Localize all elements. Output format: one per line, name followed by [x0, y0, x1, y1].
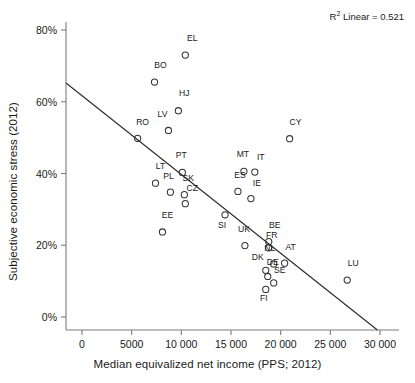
data-point-marker [182, 201, 188, 207]
data-point-label: SK [183, 173, 195, 183]
data-point-marker [159, 229, 165, 235]
data-point-label: PT [176, 150, 188, 160]
x-tick-label: 5000 [120, 338, 144, 350]
data-point-marker [263, 267, 269, 273]
data-point-label: RO [136, 117, 149, 127]
data-point-label: MT [237, 149, 250, 159]
data-point-marker [265, 273, 271, 279]
data-point-label: UK [238, 224, 250, 234]
x-tick-label: 0 [79, 338, 85, 350]
y-tick-label: 40% [36, 168, 57, 180]
data-point-marker [271, 280, 277, 286]
data-point-marker [242, 243, 248, 249]
data-point-marker [167, 189, 173, 195]
y-tick-label: 60% [36, 96, 57, 108]
data-point-label: SE [274, 265, 286, 275]
data-point-marker [175, 108, 181, 114]
data-point-marker [151, 79, 157, 85]
r-squared-annotation: R2 Linear = 0.521 [330, 10, 404, 22]
data-point-label: PL [163, 171, 174, 181]
data-point-marker [248, 196, 254, 202]
plot-canvas: ELBOHJLVROCYMTITPTLTESPLSKIECZSIEEBEUKFR… [0, 0, 415, 383]
regression-line [66, 83, 377, 330]
tick-labels-group: 0%20%40%60%80%0500010 00015 00020 00025 … [36, 24, 396, 350]
data-point-marker [165, 127, 171, 133]
y-tick-label: 20% [36, 239, 57, 251]
y-axis-title: Subjective economic stress (2012) [2, 0, 24, 383]
data-point-label: ES [234, 170, 246, 180]
data-point-marker [287, 136, 293, 142]
data-point-marker [252, 169, 258, 175]
data-point-label: CZ [187, 183, 198, 193]
data-point-label: EL [187, 33, 198, 43]
x-tick-label: 30 000 [364, 338, 396, 350]
data-point-label: EE [162, 210, 174, 220]
data-point-marker [152, 180, 158, 186]
data-point-label: BO [154, 60, 167, 70]
data-points-group: ELBOHJLVROCYMTITPTLTESPLSKIECZSIEEBEUKFR… [135, 33, 359, 303]
data-point-marker [263, 286, 269, 292]
data-point-label: HJ [179, 88, 190, 98]
regression-line-group [66, 83, 377, 330]
data-point-label: FI [260, 293, 268, 303]
x-axis-title: Median equivalized net income (PPS; 2012… [0, 358, 415, 370]
r-squared-value: Linear = 0.521 [340, 11, 404, 22]
data-point-marker [344, 277, 350, 283]
data-point-label: LV [158, 109, 168, 119]
data-point-label: LT [156, 161, 166, 171]
data-point-label: NL [264, 243, 275, 253]
data-point-label: IT [257, 152, 265, 162]
data-point-label: DK [252, 252, 264, 262]
x-tick-label: 25 000 [314, 338, 346, 350]
y-tick-label: 0% [42, 311, 57, 323]
x-tick-label: 15 000 [215, 338, 247, 350]
data-point-marker [222, 212, 228, 218]
data-point-marker [182, 52, 188, 58]
data-point-label: CY [290, 117, 302, 127]
data-point-label: FR [266, 230, 277, 240]
data-point-label: AT [285, 242, 296, 252]
data-point-label: SI [218, 220, 226, 230]
data-point-label: BE [269, 220, 281, 230]
x-tick-label: 20 000 [265, 338, 297, 350]
axes-group [61, 22, 399, 335]
data-point-label: LU [348, 258, 359, 268]
data-point-label: IE [253, 178, 261, 188]
data-point-marker [235, 188, 241, 194]
scatter-plot-figure: ELBOHJLVROCYMTITPTLTESPLSKIECZSIEEBEUKFR… [0, 0, 415, 383]
x-tick-label: 10 000 [165, 338, 197, 350]
y-tick-label: 80% [36, 24, 57, 36]
